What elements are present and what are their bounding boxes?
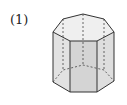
front-face xyxy=(70,41,97,92)
top-face xyxy=(53,14,114,41)
hexagonal-prism-figure xyxy=(0,0,127,105)
